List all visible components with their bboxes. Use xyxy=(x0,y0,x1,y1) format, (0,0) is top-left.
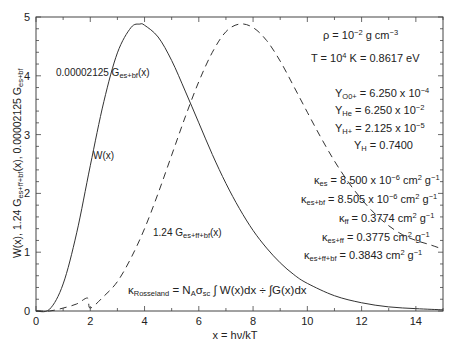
sup: −1 xyxy=(429,192,438,201)
t: K = 0.8617 eV xyxy=(346,52,419,64)
x-tick-label: 12 xyxy=(355,315,367,327)
t: = 0.3775 cm xyxy=(344,231,408,243)
t: = 0.3843 cm xyxy=(336,249,400,261)
x-axis-label: x = hν/kT xyxy=(190,330,280,341)
opacity-es-ff: κes+ff = 0.3775 cm2 g−1 xyxy=(322,231,430,245)
curve-label-g-es-ff-bf: 1.24 Ges+ff+bf(x) xyxy=(153,228,222,240)
y-label-sub: es+bf xyxy=(16,68,25,87)
temperature-annotation: T = 104 K = 0.8617 eV xyxy=(311,52,420,64)
sup: −6 xyxy=(391,173,400,182)
sup: −6 xyxy=(389,192,398,201)
sub: H+ xyxy=(342,127,352,136)
sub: es+ff xyxy=(328,236,344,245)
y-axis-label: W(x), 1.24 Ges+ff+bf(x), 0.00002125 Ges+… xyxy=(12,33,25,293)
x-tick-label: 0 xyxy=(33,315,39,327)
label-sub: es+ff+bf xyxy=(183,231,210,240)
abundance-o: YO0+ = 6.250 x 10−4 xyxy=(335,87,429,101)
opacity-es-ff-bf: κes+ff+bf = 0.3843 cm2 g−1 xyxy=(304,249,422,263)
sup: −4 xyxy=(421,86,430,95)
t: = 0.7400 xyxy=(367,139,413,151)
sup: −5 xyxy=(416,121,425,130)
y-tick-label: 1 xyxy=(24,246,30,258)
y-label-sub: es+ff+bf xyxy=(16,172,25,199)
t: g xyxy=(412,231,421,243)
opacity-es: κes = 8.500 x 10−6 cm2 g−1 xyxy=(314,174,440,188)
curve-label-w: W(x) xyxy=(93,151,114,161)
sup: −2 xyxy=(416,103,425,112)
sup: −1 xyxy=(421,230,430,239)
abundance-he: YHe = 6.250 x 10−2 xyxy=(335,104,424,118)
t: ρ = 10 xyxy=(323,29,354,41)
opacity-es-bf: κes+bf = 8.505 x 10−6 cm2 g−1 xyxy=(301,193,437,207)
label-text: (x) xyxy=(138,67,150,78)
label-text: 0.00002125 G xyxy=(56,67,119,78)
label-sub: es+bf xyxy=(119,71,138,80)
abundance-h-plus: YH+ = 2.125 x 10−5 xyxy=(335,122,425,136)
t: g xyxy=(405,249,414,261)
t: = 8.505 x 10 xyxy=(325,193,389,205)
y-label-part: W(x), 1.24 G xyxy=(11,199,23,259)
y-tick-label: 4 xyxy=(24,70,30,82)
sub: es+ff+bf xyxy=(310,254,337,263)
t: ∫ W(x)dx ÷ ∫G(x)dx xyxy=(210,284,306,296)
sup: −2 xyxy=(354,28,363,37)
label-text: W(x) xyxy=(93,150,114,161)
t: = 6.250 x 10 xyxy=(357,87,421,99)
t: g xyxy=(422,174,431,186)
x-tick-label: 10 xyxy=(301,315,313,327)
x-tick-label: 14 xyxy=(410,315,422,327)
x-tick-label: 6 xyxy=(196,315,202,327)
t: g xyxy=(419,193,428,205)
y-tick-label: 2 xyxy=(24,187,30,199)
y-label-part: (x), 0.00002125 G xyxy=(11,87,23,172)
sup: −1 xyxy=(431,173,440,182)
t: = 8.500 x 10 xyxy=(327,174,391,186)
t: g cm xyxy=(363,29,390,41)
label-text: 1.24 G xyxy=(153,227,183,238)
chart-figure: 02468101214012345 W(x), 1.24 Ges+ff+bf(x… xyxy=(0,0,452,348)
y-tick-label: 5 xyxy=(24,11,30,23)
sup: −1 xyxy=(414,248,423,257)
sub: Rosseland xyxy=(134,289,169,298)
curve-label-g-es-bf: 0.00002125 Ges+bf(x) xyxy=(56,68,150,80)
t: cm xyxy=(400,174,418,186)
sub: He xyxy=(342,109,352,118)
t: cm xyxy=(398,193,416,205)
opacity-ff: κff = 0.3774 cm2 g−1 xyxy=(339,212,434,226)
t: σ xyxy=(196,284,203,296)
t: g xyxy=(417,212,426,224)
y-tick-label: 3 xyxy=(24,129,30,141)
t: = 0.3774 cm xyxy=(349,212,413,224)
t: = 2.125 x 10 xyxy=(352,122,416,134)
sub: O0+ xyxy=(342,92,356,101)
x-tick-label: 8 xyxy=(250,315,256,327)
t: T = 10 xyxy=(311,52,342,64)
x-label-text: x = hν/kT xyxy=(213,329,258,341)
y-tick-label: 0 xyxy=(24,305,30,317)
sup: −3 xyxy=(390,28,399,37)
t: = N xyxy=(169,284,190,296)
x-tick-label: 2 xyxy=(87,315,93,327)
rosseland-formula: κRosseland = NAσsc ∫ W(x)dx ÷ ∫G(x)dx xyxy=(128,285,307,298)
sup: −1 xyxy=(426,211,435,220)
sub: es+bf xyxy=(307,198,326,207)
abundance-h: YH = 0.7400 xyxy=(354,140,413,153)
x-tick-label: 4 xyxy=(141,315,147,327)
t: = 6.250 x 10 xyxy=(352,104,416,116)
label-text: (x) xyxy=(210,227,222,238)
density-annotation: ρ = 10−2 g cm−3 xyxy=(323,29,398,41)
